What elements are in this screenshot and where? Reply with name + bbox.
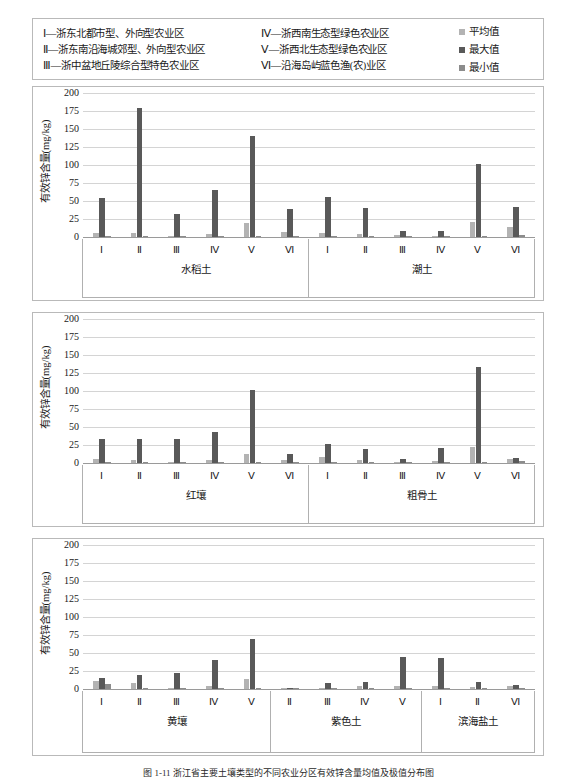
bar-cluster	[347, 313, 385, 465]
region-legend-item: Ⅱ—浙东南沿海城郊型、外向型农业区	[43, 42, 261, 57]
y-axis-tick-label: 150	[64, 350, 79, 360]
y-axis-tick-label: 50	[69, 422, 79, 432]
bar	[218, 688, 224, 689]
y-axis-tick-label: 175	[64, 332, 79, 342]
series-legend-item-max: 最大值	[459, 42, 499, 57]
bar	[438, 448, 444, 463]
bar	[180, 236, 186, 237]
bar-cluster	[497, 87, 535, 239]
category-tick-label: Ⅱ	[120, 691, 157, 713]
bar	[482, 462, 488, 463]
category-tick-label: Ⅵ	[271, 239, 309, 261]
bar	[287, 454, 293, 463]
bar-cluster	[347, 87, 385, 239]
y-axis-tick-label: 25	[69, 214, 79, 224]
y-axis-tick-label: 0	[74, 684, 79, 694]
bar	[131, 460, 137, 463]
bar	[93, 681, 99, 689]
bar	[357, 234, 363, 237]
y-axis-tick-label: 150	[64, 124, 79, 134]
group-name-label: 黄壤	[83, 713, 270, 731]
bar	[105, 684, 111, 689]
bar	[369, 688, 375, 689]
bar	[513, 685, 519, 689]
bar	[281, 460, 287, 463]
bar	[482, 688, 488, 689]
bars-area	[83, 87, 535, 239]
y-axis-tick-label: 0	[74, 458, 79, 468]
y-axis-tick-label: 200	[64, 540, 79, 550]
y-axis-tick-label: 25	[69, 440, 79, 450]
bar-cluster	[347, 539, 385, 691]
bar-cluster	[497, 313, 535, 465]
figure-caption: 图 1-11 浙江省主要土壤类型的不同农业分区有效锌含量均值及极值分布图	[0, 766, 577, 779]
y-axis-tick-label: 200	[64, 88, 79, 98]
bar-cluster	[460, 313, 498, 465]
bar	[444, 236, 450, 237]
bar	[206, 234, 212, 237]
bar	[99, 198, 105, 237]
axis-group: ⅠⅡⅢⅣⅤⅥ粗骨土	[308, 465, 535, 524]
bar	[137, 439, 143, 463]
legend-swatch-icon	[459, 65, 465, 71]
bar-cluster	[271, 87, 309, 239]
category-tick-label: Ⅵ	[497, 465, 535, 487]
chart-panel-3: 有效锌含量(mg/kg)0255075100125150175200ⅠⅡⅢⅣⅤ黄…	[32, 538, 544, 756]
bar-cluster	[309, 539, 347, 691]
bar	[476, 164, 482, 237]
group-name-label: 潮土	[309, 261, 534, 279]
bar	[519, 461, 525, 463]
bar	[256, 236, 262, 237]
bar	[180, 462, 186, 463]
series-legend-label: 最大值	[469, 42, 499, 57]
category-tick-label: Ⅲ	[158, 239, 196, 261]
category-tick-label: Ⅵ	[271, 465, 309, 487]
bar-group	[271, 539, 422, 691]
bar	[357, 686, 363, 689]
bar-group	[309, 313, 535, 465]
category-tick-label: Ⅱ	[271, 691, 308, 713]
bar	[319, 688, 325, 689]
region-legend-item: Ⅰ—浙东北都市型、外向型农业区	[43, 26, 261, 41]
bar	[293, 236, 299, 237]
y-axis-tick-label: 100	[64, 612, 79, 622]
bar	[394, 235, 400, 237]
bar	[400, 231, 406, 237]
bar	[281, 232, 287, 237]
category-tick-label: Ⅰ	[83, 239, 121, 261]
category-tick-label: Ⅳ	[422, 465, 460, 487]
bar	[432, 236, 438, 237]
bar	[507, 227, 513, 237]
bar-cluster	[271, 313, 309, 465]
group-name-label: 红壤	[83, 487, 308, 505]
bar-cluster	[121, 539, 159, 691]
y-axis-tick-label: 75	[69, 178, 79, 188]
bar-cluster	[384, 313, 422, 465]
figure-page: Ⅰ—浙东北都市型、外向型农业区 Ⅱ—浙东南沿海城郊型、外向型农业区 Ⅲ—浙中盆地…	[0, 0, 577, 780]
bar	[400, 459, 406, 463]
category-tick-label: Ⅱ	[121, 465, 159, 487]
group-name-label: 紫色土	[271, 713, 421, 731]
category-tick-label: Ⅰ	[309, 465, 347, 487]
region-legend-item: Ⅴ—浙西北生态型绿色农业区	[261, 42, 441, 57]
bar	[400, 657, 406, 689]
bar	[256, 462, 262, 463]
bar	[444, 462, 450, 463]
bar	[476, 682, 482, 689]
category-axis: ⅠⅡⅢⅣⅤⅥ水稻土ⅠⅡⅢⅣⅤⅥ潮土	[83, 239, 535, 298]
category-axis: ⅠⅡⅢⅣⅤ黄壤ⅡⅢⅣⅤ紫色土ⅠⅡⅥ滨海盐土	[83, 691, 535, 753]
bar-cluster	[422, 313, 460, 465]
bar	[357, 460, 363, 463]
bar-cluster	[121, 87, 159, 239]
category-tick-label: Ⅲ	[309, 691, 346, 713]
bar	[438, 231, 444, 237]
bar-cluster	[309, 87, 347, 239]
series-legend-item-min: 最小值	[459, 60, 499, 75]
bar-cluster	[271, 539, 309, 691]
bar	[331, 236, 337, 237]
bar	[470, 222, 476, 237]
legend-swatch-icon	[459, 29, 465, 35]
y-axis-tick-label: 25	[69, 666, 79, 676]
bar	[206, 460, 212, 463]
category-tick-label: Ⅱ	[347, 465, 385, 487]
